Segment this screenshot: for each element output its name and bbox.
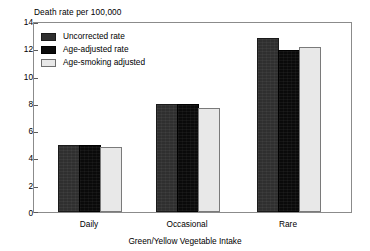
y-tick-label-4: 4 [11,154,33,162]
legend-swatch-icon-uncorrected-rate [41,33,56,41]
y-tick-mark-0 [34,212,38,213]
bar-daily-uncorrected-rate [58,145,80,212]
legend-swatch-icon-age-adjusted-rate [41,46,56,54]
bar-daily-age-smoking-adjusted [100,147,122,212]
y-tick-mark-14 [34,23,38,24]
bar-chart: Death rate per 100,000 14 12 10 8 6 4 2 … [0,0,370,251]
y-tick-mark-2 [34,187,38,188]
y-tick-mark-10 [34,78,38,79]
y-tick-label-10: 10 [11,73,33,81]
y-tick-label-0: 0 [11,209,33,217]
bar-rare-uncorrected-rate [257,38,279,212]
y-tick-mark-8 [34,105,38,106]
bar-rare-age-smoking-adjusted [299,47,321,212]
x-tick-label-rare: Rare [279,219,297,229]
y-tick-label-2: 2 [11,182,33,190]
x-tick-label-daily: Daily [80,219,98,229]
legend-item-uncorrected-rate: Uncorrected rate [41,30,181,43]
y-tick-mark-4 [34,159,38,160]
legend-item-age-smoking-adjusted: Age-smoking adjusted [41,56,181,69]
legend-item-age-adjusted-rate: Age-adjusted rate [41,43,181,56]
y-tick-mark-12 [34,50,38,51]
y-axis: 14 12 10 8 6 4 2 0 [6,22,33,213]
legend: Uncorrected rate Age-adjusted rate Age-s… [41,30,181,69]
y-tick-label-6: 6 [11,127,33,135]
legend-label-uncorrected-rate: Uncorrected rate [63,32,125,41]
bar-occasional-age-smoking-adjusted [198,108,220,212]
y-tick-label-14: 14 [11,18,33,26]
y-tick-label-12: 12 [11,45,33,53]
plot-area: Uncorrected rate Age-adjusted rate Age-s… [33,22,352,213]
y-axis-title: Death rate per 100,000 [34,7,122,17]
x-tick-label-occasional: Occasional [166,219,207,229]
bar-occasional-uncorrected-rate [156,104,178,212]
bar-daily-age-adjusted-rate [79,145,101,212]
legend-swatch-icon-age-smoking-adjusted [41,59,56,67]
legend-label-age-smoking-adjusted: Age-smoking adjusted [63,58,145,67]
x-axis-title: Green/Yellow Vegetable Intake [0,236,370,246]
bar-rare-age-adjusted-rate [278,50,300,212]
y-tick-label-8: 8 [11,100,33,108]
legend-label-age-adjusted-rate: Age-adjusted rate [63,45,129,54]
y-tick-mark-6 [34,132,38,133]
bar-occasional-age-adjusted-rate [177,104,199,212]
